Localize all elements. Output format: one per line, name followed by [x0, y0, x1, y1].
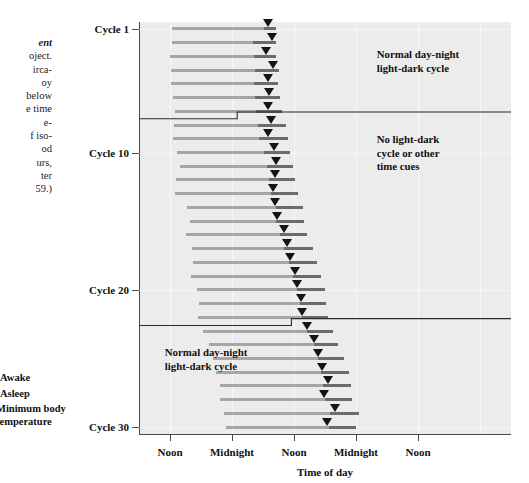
x-axis-tick — [418, 434, 419, 441]
legend-item-label: Minimum body temperature — [0, 402, 66, 428]
asleep-segment — [254, 82, 278, 85]
asleep-segment — [255, 69, 279, 72]
x-axis-tick-label: Midnight — [334, 446, 378, 458]
minimum-body-temperature-marker — [263, 19, 273, 27]
asleep-segment — [307, 330, 333, 333]
cycle-bar — [187, 206, 304, 209]
asleep-segment — [302, 316, 328, 319]
x-axis-tick-label: Midnight — [210, 446, 254, 458]
minimum-body-temperature-marker — [323, 376, 333, 384]
asleep-segment — [314, 343, 339, 346]
awake-segment — [177, 151, 264, 154]
x-axis-tick — [170, 434, 171, 441]
awake-segment — [203, 330, 307, 333]
asleep-segment — [325, 398, 352, 401]
asleep-segment — [259, 137, 287, 140]
caption-line: urs, — [0, 156, 52, 169]
cycle-bar — [220, 384, 351, 387]
minimum-body-temperature-marker — [263, 129, 273, 137]
minimum-body-temperature-marker — [290, 267, 300, 275]
asleep-segment — [293, 275, 321, 278]
legend-item-label: Asleep — [0, 386, 30, 402]
asleep-segment — [330, 412, 359, 415]
asleep-segment — [271, 192, 298, 195]
minimum-body-temperature-marker — [266, 116, 276, 124]
cycle-bar — [175, 110, 281, 113]
minimum-body-temperature-marker — [267, 33, 277, 41]
minimum-body-temperature-marker — [261, 47, 271, 55]
asleep-segment — [264, 151, 290, 154]
asleep-segment — [289, 261, 317, 264]
x-axis-tick — [294, 434, 295, 441]
y-axis-tick — [132, 153, 139, 154]
cycle-bar — [174, 124, 286, 127]
y-axis-tick-label: Cycle 10 — [89, 147, 129, 159]
awake-segment — [173, 137, 260, 140]
vertical-gridline — [480, 22, 481, 434]
asleep-segment — [284, 247, 313, 250]
cycle-bar — [193, 261, 317, 264]
y-axis-tick-label: Cycle 30 — [89, 421, 129, 433]
minimum-body-temperature-marker — [330, 404, 340, 412]
minimum-body-temperature-marker — [302, 322, 312, 330]
caption-line: f iso- — [0, 129, 52, 142]
cycle-bar — [176, 178, 295, 181]
minimum-body-temperature-marker — [322, 418, 332, 426]
awake-segment — [172, 41, 253, 44]
asleep-segment — [256, 110, 281, 113]
caption-line: ter — [0, 169, 52, 182]
asleep-segment — [300, 302, 326, 305]
cycle-bar — [171, 69, 279, 72]
annotation-top-region: Normal day-night light-dark cycle — [377, 48, 459, 75]
minimum-body-temperature-marker — [268, 61, 278, 69]
cycle-bar — [173, 137, 288, 140]
minimum-body-temperature-marker — [269, 143, 279, 151]
y-axis-tick — [132, 29, 139, 30]
caption-line: oy — [0, 76, 52, 89]
cycle-bar — [171, 82, 278, 85]
caption-line: below — [0, 89, 52, 102]
y-axis — [139, 22, 140, 434]
awake-segment — [199, 302, 300, 305]
awake-segment — [175, 192, 271, 195]
awake-segment — [187, 206, 276, 209]
cycle-bar — [224, 412, 359, 415]
minimum-body-temperature-marker — [317, 363, 327, 371]
asleep-segment — [269, 178, 295, 181]
awake-segment — [224, 412, 330, 415]
cycle-bar — [191, 275, 321, 278]
legend-item-label: Awake — [0, 370, 30, 386]
awake-segment — [172, 27, 264, 30]
asleep-segment — [264, 27, 276, 30]
awake-segment — [220, 384, 323, 387]
cycle-bar — [203, 330, 333, 333]
cycle-bar — [172, 27, 276, 30]
cycle-bar — [173, 96, 280, 99]
cycle-bar — [199, 302, 327, 305]
cycle-bar — [190, 220, 305, 223]
vertical-gridline — [356, 22, 357, 434]
asleep-segment — [255, 96, 280, 99]
asleep-segment — [323, 384, 351, 387]
minimum-body-temperature-marker — [313, 349, 323, 357]
minimum-body-temperature-marker — [282, 239, 292, 247]
annotation-middle-region: No light-dark cycle or other time cues — [377, 133, 440, 174]
asleep-segment — [258, 124, 286, 127]
horizontal-gridline — [139, 290, 511, 291]
minimum-body-temperature-marker — [270, 198, 280, 206]
awake-segment — [186, 233, 280, 236]
asleep-segment — [276, 206, 303, 209]
cycle-bar — [180, 165, 293, 168]
minimum-body-temperature-marker — [263, 74, 273, 82]
actogram-chart: Normal day-night light-dark cycle No lig… — [139, 22, 511, 434]
awake-segment — [193, 261, 289, 264]
awake-segment — [175, 110, 256, 113]
awake-segment — [174, 124, 258, 127]
vertical-gridline — [418, 22, 419, 434]
caption-line: irca- — [0, 63, 52, 76]
minimum-body-temperature-marker — [268, 184, 278, 192]
minimum-body-temperature-marker — [270, 170, 280, 178]
annotation-bottom-region: Normal day-night light-dark cycle — [165, 346, 247, 373]
awake-segment — [173, 96, 255, 99]
cycle-bar — [197, 288, 325, 291]
